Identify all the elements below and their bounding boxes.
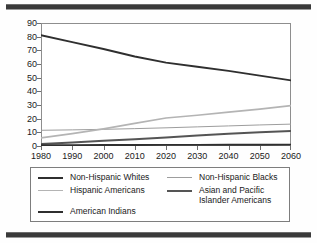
- y-tick-label: 90: [27, 19, 37, 28]
- series-line: [41, 35, 291, 80]
- legend-item[interactable]: Hispanic Americans: [38, 185, 145, 195]
- x-tick-mark: [41, 146, 42, 150]
- x-tick-label: 2020: [156, 151, 176, 161]
- x-tick-mark: [260, 146, 261, 150]
- legend-item-label: Non-Hispanic Whites: [70, 172, 149, 182]
- x-tick-mark: [290, 146, 291, 150]
- y-tick-label: 80: [27, 32, 37, 41]
- plot-area: [41, 23, 291, 146]
- legend-item-label: American Indians: [70, 206, 136, 216]
- bottom-rule: [6, 232, 311, 238]
- legend-item[interactable]: Non-Hispanic Whites: [38, 172, 149, 182]
- x-tick-mark: [229, 146, 230, 150]
- x-tick-mark: [104, 146, 105, 150]
- x-tick-label: 2040: [218, 151, 238, 161]
- legend-item-label: Asian and Pacific Islander Americans: [199, 185, 271, 205]
- x-tick-label: 2000: [93, 151, 113, 161]
- x-tick-mark: [197, 146, 198, 150]
- y-tick-label: 60: [27, 60, 37, 69]
- x-axis-tick-labels: 198019902000201020202030204020502060: [0, 151, 317, 163]
- x-tick-label: 2050: [250, 151, 270, 161]
- x-tick-label: 2060: [281, 151, 301, 161]
- x-axis-tick-marks: [41, 146, 291, 150]
- x-tick-label: 1990: [62, 151, 82, 161]
- legend-line-swatch-icon: [38, 190, 63, 191]
- x-tick-label: 2010: [125, 151, 145, 161]
- legend-line-swatch-icon: [38, 177, 63, 179]
- legend-line-swatch-icon: [167, 190, 192, 192]
- legend: Non-Hispanic WhitesHispanic AmericansAme…: [30, 167, 290, 222]
- x-tick-label: 1980: [31, 151, 51, 161]
- y-tick-label: 10: [27, 128, 37, 137]
- x-tick-label: 2030: [187, 151, 207, 161]
- y-tick-label: 30: [27, 101, 37, 110]
- x-tick-mark: [72, 146, 73, 150]
- y-tick-label: 50: [27, 73, 37, 82]
- figure-container: 0102030405060708090 19801990200020102020…: [0, 0, 317, 243]
- series-lines: [41, 23, 291, 146]
- x-tick-mark: [135, 146, 136, 150]
- y-axis-tick-labels: 0102030405060708090: [10, 23, 37, 146]
- legend-line-swatch-icon: [38, 211, 63, 213]
- top-rule: [6, 4, 311, 10]
- x-tick-mark: [166, 146, 167, 150]
- legend-item[interactable]: American Indians: [38, 206, 136, 216]
- legend-item[interactable]: Non-Hispanic Blacks: [167, 172, 277, 182]
- legend-item[interactable]: Asian and Pacific Islander Americans: [167, 185, 271, 205]
- legend-item-label: Non-Hispanic Blacks: [199, 172, 277, 182]
- legend-item-label: Hispanic Americans: [70, 185, 145, 195]
- legend-line-swatch-icon: [167, 177, 192, 178]
- y-tick-label: 70: [27, 46, 37, 55]
- series-line: [41, 124, 291, 130]
- y-tick-label: 20: [27, 114, 37, 123]
- y-tick-label: 40: [27, 87, 37, 96]
